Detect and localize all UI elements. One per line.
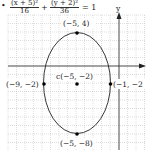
label-left-covertex: (−9, −2) — [6, 80, 39, 89]
point-left-covertex — [42, 82, 46, 86]
y-axis-arrow-icon — [117, 12, 122, 19]
y-axis-label: y — [115, 4, 121, 13]
ellipse-graph: y (−5, 4) c(−5, −2) (−9, −2) (−1, −2 (−5… — [0, 0, 146, 150]
point-bottom-vertex — [75, 132, 79, 136]
point-right-covertex — [109, 82, 113, 86]
point-center — [75, 82, 79, 86]
point-top-vertex — [75, 31, 79, 35]
x-axis-arrow-icon — [139, 64, 146, 69]
label-top-vertex: (−5, 4) — [63, 19, 90, 28]
label-right-covertex: (−1, −2 — [113, 80, 143, 89]
label-center: c(−5, −2) — [56, 72, 93, 81]
label-bottom-vertex: (−5, −8) — [60, 139, 93, 148]
